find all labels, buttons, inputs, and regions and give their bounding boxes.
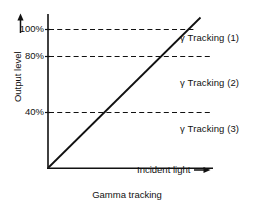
region-label-gamma-tracking-2: γ Tracking (2) — [180, 78, 239, 88]
y-tick-label-100: 100% — [0, 24, 44, 34]
gamma-tracking-figure: 100% 80% 40% Output level γ Tracking (1)… — [0, 0, 254, 209]
x-axis-title: Incident light — [137, 165, 190, 175]
figure-caption: Gamma tracking — [0, 190, 254, 200]
region-label-gamma-tracking-3: γ Tracking (3) — [180, 124, 239, 134]
y-axis-title: Output level — [13, 37, 23, 117]
response-line — [49, 18, 201, 168]
region-label-gamma-tracking-1: γ Tracking (1) — [180, 33, 239, 43]
